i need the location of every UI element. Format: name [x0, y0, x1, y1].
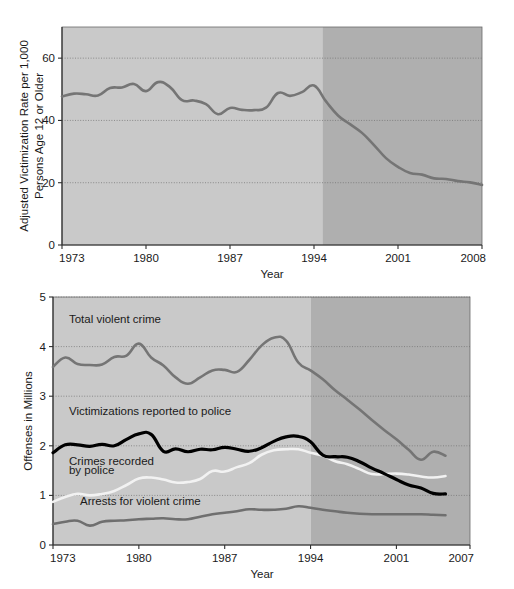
x-tick-label: 2008 [460, 252, 486, 264]
x-tick-label: 1980 [133, 252, 159, 264]
series-annotation: by police [69, 464, 114, 476]
bottom-x-axis-title: Year [250, 568, 273, 580]
series-annotation: Total violent crime [69, 313, 161, 325]
x-tick-label: 1980 [126, 552, 152, 564]
y-tick-label: 4 [40, 341, 47, 353]
bottom-chart-plot-background [53, 297, 470, 545]
series-annotation: Victimizations reported to police [69, 405, 231, 417]
series-annotation: Arrests for violent crime [80, 495, 201, 507]
y-tick-label: 0 [40, 539, 46, 551]
y-tick-label: 60 [42, 52, 55, 64]
y-tick-label: 3 [40, 390, 46, 402]
top-chart: 0204060 197319801987199420012008 Adjuste… [18, 27, 486, 280]
x-tick-label: 2001 [384, 552, 410, 564]
x-tick-label: 1973 [59, 252, 85, 264]
x-tick-label: 1994 [298, 552, 324, 564]
y-tick-label: 1 [40, 489, 46, 501]
y-tick-label: 0 [49, 239, 55, 251]
top-y-axis-title-line2: Persons Age 12 or Older [33, 73, 45, 199]
y-tick-label: 5 [40, 291, 46, 303]
x-tick-label: 2001 [385, 252, 411, 264]
top-y-axis-title-line1: Adjusted Victimization Rate per 1,000 [18, 40, 30, 232]
bottom-y-axis-title: Offenses in Millions [22, 371, 34, 471]
x-tick-label: 1973 [50, 552, 76, 564]
top-x-axis-title: Year [260, 268, 283, 280]
y-tick-label: 2 [40, 440, 46, 452]
x-tick-label: 2007 [448, 552, 474, 564]
x-tick-label: 1987 [212, 552, 238, 564]
crime-trends-figure: 0204060 197319801987199420012008 Adjuste… [0, 0, 514, 589]
x-tick-label: 1994 [301, 252, 327, 264]
x-tick-label: 1987 [217, 252, 243, 264]
bottom-chart: 012345 197319801987199420012007 Total vi… [22, 291, 474, 580]
top-chart-plot-background [62, 27, 482, 245]
